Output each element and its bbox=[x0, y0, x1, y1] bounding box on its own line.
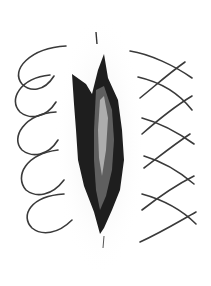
illustration bbox=[0, 0, 211, 286]
wound-suture-drawing bbox=[0, 0, 211, 286]
